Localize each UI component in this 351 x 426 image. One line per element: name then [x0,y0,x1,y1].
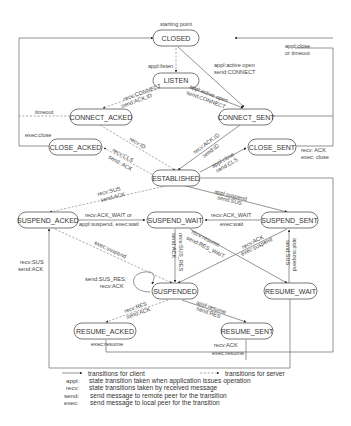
state-closed: CLOSED [153,30,199,46]
state-connect-acked: CONNECT_ACKED [70,109,133,125]
state-suspend-wait: SUSPEND_WAIT [147,212,203,228]
svg-text:LISTEN: LISTEN [164,77,189,84]
svg-text:exec: close: exec: close [301,154,329,160]
svg-text:appl:active open: appl:active open [214,62,255,68]
legend-key-send: send: [64,392,79,399]
svg-text:send:CONNECT: send:CONNECT [214,69,256,75]
state-connect-sent: CONNECT_SENT [217,109,275,125]
legend-desc-recv: state transitions taken by received mess… [89,384,218,392]
svg-text:ESTABLISHED: ESTABLISHED [152,175,200,182]
svg-text:exec:wait: exec:wait [220,221,244,227]
svg-text:RESUME_SENT: RESUME_SENT [221,328,274,336]
legend-client-label: transitions for client [88,370,145,377]
svg-text:CLOSED: CLOSED [162,35,191,42]
svg-text:recv:ACK_WAIT: recv:ACK_WAIT [211,212,252,218]
svg-text:SUSPEND_SENT: SUSPEND_SENT [261,217,318,225]
edge-close-sent-to-closed [295,48,333,146]
state-suspend-acked: SUSPEND_ACKED [17,212,79,228]
svg-text:SUSPENDED: SUSPENDED [153,288,197,295]
svg-text:appl:close: appl:close [285,43,310,49]
edge-connect-acked-established [100,125,175,170]
svg-text:send:ACK: send:ACK [171,233,177,258]
svg-text:send:ACK: send:ACK [18,266,43,272]
svg-text:send:SUS_RES;: send:SUS_RES; [85,276,127,282]
legend-key-exec: exec: [64,399,79,406]
svg-text:exec:suspend: exec:suspend [94,239,128,259]
svg-text:or timeout: or timeout [285,50,310,56]
legend-key-recv: recv: [66,384,80,391]
legend-server-label: transitions for server [225,370,286,377]
edge-resume-acked-exec [106,340,228,352]
svg-text:CLOSE_SENT: CLOSE_SENT [249,144,296,152]
svg-text:recv: ACK: recv: ACK [301,147,326,153]
start-label: starting point [160,21,192,27]
svg-text:recv:ID: recv:ID [128,136,146,150]
state-established: ESTABLISHED [152,170,200,186]
legend: transitions for client transitions for s… [62,370,286,408]
svg-text:SUSPEND_WAIT: SUSPEND_WAIT [148,217,204,225]
svg-text:appl:suspend, exec:wait: appl:suspend, exec:wait [79,221,139,227]
transition-labels: starting point appl:close or timeout app… [18,21,329,356]
svg-text:exec:resume: exec:resume [212,350,244,356]
svg-text:recv:SUS: recv:SUS [20,259,44,265]
edge-suspend-acked-suspended [55,229,172,283]
svg-text:appl:suspend: appl:suspend [292,238,298,271]
svg-text:exec:close: exec:close [25,132,51,138]
svg-text:appl:listen: appl:listen [148,63,173,69]
legend-desc-exec: send message to local peer for the trans… [90,399,220,407]
svg-text:SUSPEND_ACKED: SUSPEND_ACKED [17,217,79,225]
edge-suspended-self-loop [134,272,155,292]
state-resume-acked: RESUME_ACKED [74,323,136,339]
svg-text:exec:resume: exec:resume [91,341,123,347]
svg-text:recv:ACK: recv:ACK [100,283,124,289]
state-resume-wait: RESUME_WAIT [264,283,317,299]
state-suspend-sent: SUSPEND_SENT [261,212,318,228]
svg-text:timeout: timeout [35,109,54,115]
edge-close-acked-exec-close [19,38,49,146]
state-close-sent: CLOSE_SENT [248,139,296,155]
svg-text:CONNECT_SENT: CONNECT_SENT [217,114,275,122]
state-suspended: SUSPENDED [152,283,198,299]
svg-text:CONNECT_ACKED: CONNECT_ACKED [70,114,133,122]
state-close-acked: CLOSE_ACKED [49,139,102,155]
states: CLOSED LISTEN CONNECT_ACKED CONNECT_SENT… [17,30,318,339]
svg-text:recv:ACK: recv:ACK [214,342,238,348]
svg-text:recv:SUS_RES: recv:SUS_RES [178,233,184,272]
state-resume-sent: RESUME_SENT [221,323,274,339]
svg-text:send:SUS: send:SUS [285,240,291,265]
svg-text:RESUME_ACKED: RESUME_ACKED [76,328,134,336]
svg-text:RESUME_WAIT: RESUME_WAIT [265,288,317,296]
svg-text:recv:ACK_WAIT or: recv:ACK_WAIT or [85,212,132,218]
legend-key-appl: appl: [66,377,80,384]
tcp-like-state-diagram: CLOSED LISTEN CONNECT_ACKED CONNECT_SENT… [0,0,351,426]
svg-text:CLOSE_ACKED: CLOSE_ACKED [50,144,102,152]
